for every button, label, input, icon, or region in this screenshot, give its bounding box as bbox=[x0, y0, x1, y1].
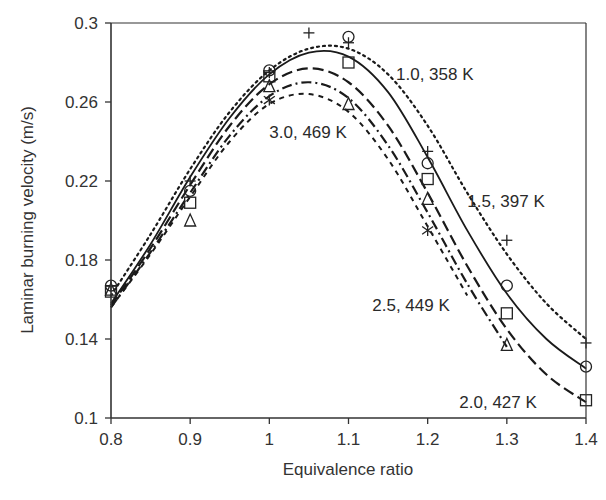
square-marker bbox=[185, 197, 196, 208]
plus-marker bbox=[264, 67, 275, 78]
square-marker bbox=[422, 174, 433, 185]
series-label-5: 2.0, 427 K bbox=[459, 393, 537, 412]
series-curve-3 bbox=[111, 68, 586, 402]
circle-marker bbox=[501, 280, 512, 291]
plus-marker bbox=[422, 146, 433, 157]
y-tick-label: 0.22 bbox=[65, 172, 98, 191]
y-tick-label: 0.3 bbox=[74, 14, 98, 33]
x-tick-label: 0.8 bbox=[99, 430, 123, 449]
series-annotations: 1.0, 358 K1.5, 397 K3.0, 469 K2.5, 449 K… bbox=[269, 65, 545, 412]
series-markers bbox=[106, 27, 592, 405]
square-marker bbox=[501, 308, 512, 319]
triangle-marker bbox=[343, 97, 354, 109]
axes: 0.80.911.11.21.31.40.10.140.180.220.260.… bbox=[65, 14, 598, 449]
plus-marker bbox=[501, 235, 512, 246]
x-tick-label: 1 bbox=[265, 430, 274, 449]
series-label-2: 1.5, 397 K bbox=[467, 192, 545, 211]
x-axis-title: Equivalence ratio bbox=[283, 460, 413, 479]
x-tick-label: 1.1 bbox=[337, 430, 361, 449]
plus-marker bbox=[343, 37, 354, 48]
y-axis-title: Laminar burning velocity (m/s) bbox=[18, 106, 37, 334]
x-tick-label: 0.9 bbox=[178, 430, 202, 449]
triangle-marker bbox=[185, 214, 196, 226]
y-tick-label: 0.1 bbox=[74, 409, 98, 428]
series-label-4: 2.5, 449 K bbox=[372, 296, 450, 315]
x-tick-label: 1.3 bbox=[495, 430, 519, 449]
asterisk-marker bbox=[264, 95, 275, 106]
series-label-3: 3.0, 469 K bbox=[269, 123, 347, 142]
series-label-1: 1.0, 358 K bbox=[396, 65, 474, 84]
triangle-marker bbox=[501, 338, 512, 350]
y-tick-label: 0.14 bbox=[65, 330, 98, 349]
y-tick-label: 0.26 bbox=[65, 93, 98, 112]
plus-marker bbox=[303, 27, 314, 38]
x-tick-label: 1.2 bbox=[416, 430, 440, 449]
series-curves bbox=[111, 46, 586, 402]
x-tick-label: 1.4 bbox=[574, 430, 598, 449]
burning-velocity-chart: 0.80.911.11.21.31.40.10.140.180.220.260.… bbox=[0, 0, 606, 500]
y-tick-label: 0.18 bbox=[65, 251, 98, 270]
